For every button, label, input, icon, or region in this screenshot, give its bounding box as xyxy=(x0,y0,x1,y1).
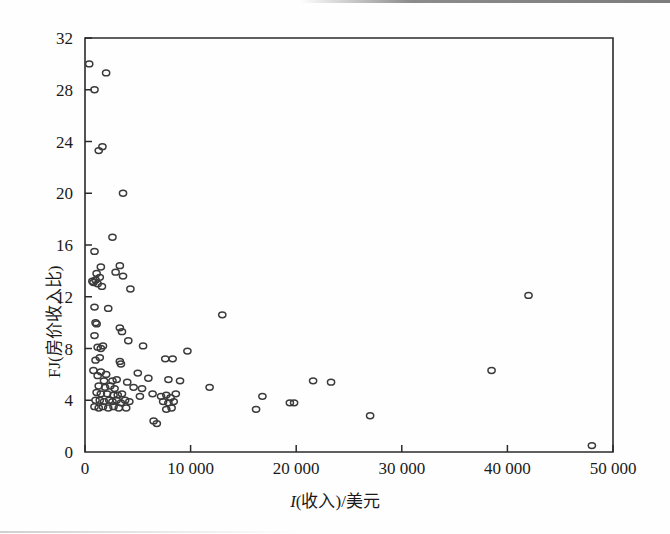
data-point xyxy=(112,269,119,275)
y-axis-tick-labels: 048121620242832 xyxy=(56,29,74,462)
y-tick-label: 28 xyxy=(56,81,73,100)
plot-frame xyxy=(85,38,613,452)
figure-canvas: 010 00020 00030 00040 00050 000 04812162… xyxy=(0,0,670,534)
data-point xyxy=(184,348,191,354)
x-tick-label: 30 000 xyxy=(378,459,425,478)
y-tick-label: 16 xyxy=(56,236,73,255)
data-point xyxy=(327,379,334,385)
data-point xyxy=(105,305,112,311)
data-point xyxy=(86,61,93,67)
data-point xyxy=(127,286,134,292)
data-point xyxy=(136,393,143,399)
x-tick-label: 40 000 xyxy=(484,459,531,478)
data-point xyxy=(367,413,374,419)
data-point-group xyxy=(86,61,596,448)
data-point xyxy=(172,391,179,397)
x-axis-tick-labels: 010 00020 00030 00040 00050 000 xyxy=(81,459,637,478)
x-tick-label: 20 000 xyxy=(273,459,320,478)
scatter-plot: 010 00020 00030 00040 00050 000 04812162… xyxy=(0,0,670,534)
data-point xyxy=(119,190,126,196)
data-point xyxy=(252,406,259,412)
data-point xyxy=(103,70,110,76)
y-axis-ticks xyxy=(85,38,92,400)
data-point xyxy=(130,384,137,390)
data-point xyxy=(588,443,595,449)
data-point xyxy=(116,263,123,269)
x-axis-ticks xyxy=(85,445,613,452)
data-point xyxy=(149,391,156,397)
data-point xyxy=(162,356,169,362)
data-point xyxy=(176,378,183,384)
data-point xyxy=(206,384,213,390)
data-point xyxy=(488,368,495,374)
y-tick-label: 24 xyxy=(56,133,74,152)
data-point xyxy=(124,379,131,385)
data-point xyxy=(119,273,126,279)
data-point xyxy=(91,304,98,310)
y-axis-label: FJ(房价收入比) xyxy=(14,150,44,380)
x-tick-label: 0 xyxy=(81,459,90,478)
data-point xyxy=(97,264,104,270)
data-point xyxy=(169,356,176,362)
data-point xyxy=(259,393,266,399)
data-point xyxy=(100,378,107,384)
data-point xyxy=(91,249,98,255)
data-point xyxy=(109,234,116,240)
x-tick-label: 10 000 xyxy=(167,459,214,478)
data-point xyxy=(525,293,532,299)
y-axis-label-text: FJ(房价收入比) xyxy=(40,266,65,378)
y-tick-label: 32 xyxy=(56,29,73,48)
x-axis-label: I(收入)/美元 xyxy=(0,487,670,512)
data-point xyxy=(138,386,145,392)
x-tick-label: 50 000 xyxy=(590,459,637,478)
y-tick-label: 8 xyxy=(65,340,74,359)
data-point xyxy=(91,333,98,339)
y-tick-label: 20 xyxy=(56,184,73,203)
data-point xyxy=(134,370,141,376)
data-point xyxy=(123,405,130,411)
data-point xyxy=(310,378,317,384)
y-tick-label: 4 xyxy=(65,391,74,410)
data-point xyxy=(165,377,172,383)
data-point xyxy=(139,343,146,349)
data-point xyxy=(219,312,226,318)
data-point xyxy=(125,338,132,344)
x-axis-label-rest: (收入)/美元 xyxy=(296,492,380,511)
y-tick-label: 0 xyxy=(65,443,74,462)
data-point xyxy=(145,375,152,381)
